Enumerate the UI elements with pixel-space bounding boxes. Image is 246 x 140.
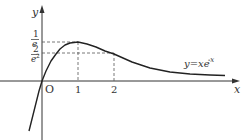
x-tick-1: 1 [75, 84, 81, 95]
function-label-base: y=xe [183, 58, 210, 69]
x-axis-label: x [234, 83, 241, 96]
y-axis-label: y [31, 6, 39, 19]
y-tick-2-over-e2-exponent: 2 [36, 52, 40, 59]
y-tick-1-over-e-numerator: 1 [33, 29, 39, 39]
x-tick-2: 2 [111, 84, 117, 95]
dashed-guides [42, 42, 114, 81]
curve-xe-neg-x [29, 42, 225, 131]
y-tick-2-over-e2: 2 e 2 [31, 44, 40, 64]
function-label-exponent: -x [208, 56, 214, 64]
function-graph: y x O 1 2 1 e 2 e 2 y=xe -x [0, 0, 246, 140]
origin-label: O [45, 83, 54, 96]
function-label: y=xe -x [183, 56, 214, 69]
y-axis-arrow-icon [40, 5, 45, 13]
